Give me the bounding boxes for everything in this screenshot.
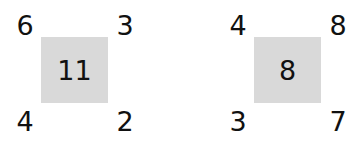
corner-value-bottom-right: 7 [325,108,351,135]
corner-value-top-left: 4 [225,12,251,39]
cell-group-1: 6 3 11 4 2 [12,12,143,136]
corner-value-bottom-left: 4 [12,108,38,135]
corner-value-top-right: 8 [325,12,351,39]
corner-value-bottom-left: 3 [225,108,251,135]
corner-value-bottom-right: 2 [112,108,138,135]
cell-group-2: 4 8 8 3 7 [225,12,356,136]
corner-value-top-right: 3 [112,12,138,39]
corner-value-top-left: 6 [12,12,38,39]
center-box: 8 [254,37,321,103]
center-box: 11 [41,37,108,103]
diagram-canvas: 6 3 11 4 2 4 8 8 3 7 [0,0,360,151]
center-value: 8 [279,57,296,84]
center-value: 11 [57,57,91,84]
